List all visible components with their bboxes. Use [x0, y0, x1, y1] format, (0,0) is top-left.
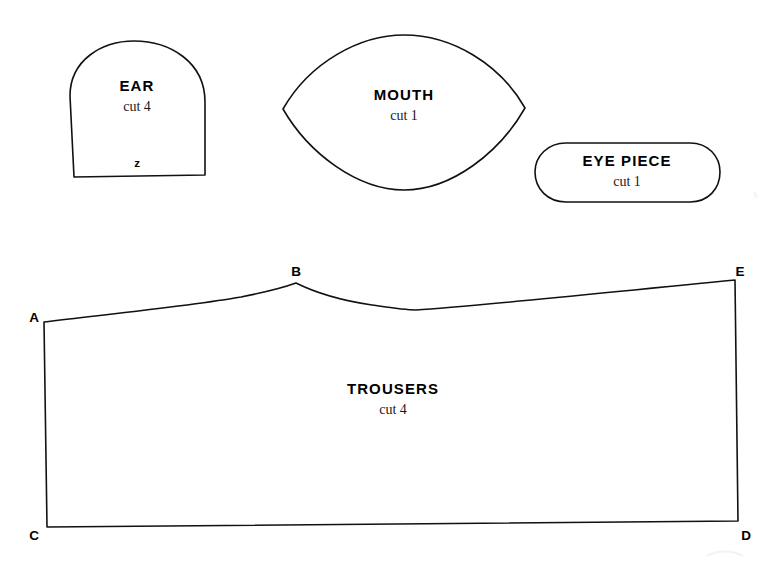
- mouth-piece-outline[interactable]: [283, 35, 525, 190]
- pattern-drawing-canvas: [0, 0, 775, 569]
- trousers-piece-outline[interactable]: [44, 280, 738, 527]
- scan-artifact-bottom-right: [707, 552, 743, 557]
- eye-piece-outline[interactable]: [535, 143, 720, 202]
- pattern-sheet: EAR cut 4 z MOUTH cut 1 EYE PIECE cut 1 …: [0, 0, 775, 569]
- scan-artifact-right-edge: [754, 192, 757, 198]
- ear-piece-outline[interactable]: [70, 41, 205, 177]
